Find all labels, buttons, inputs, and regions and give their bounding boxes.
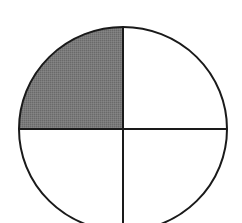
- shaded-quadrant-top-left: [19, 27, 123, 129]
- fraction-circle-diagram: [0, 0, 242, 223]
